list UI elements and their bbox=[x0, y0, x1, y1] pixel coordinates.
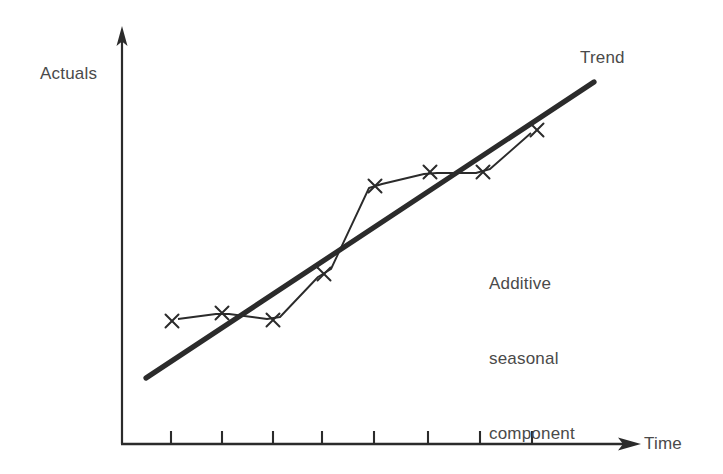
x-axis-label: Time bbox=[644, 434, 682, 454]
trend-label: Trend bbox=[580, 48, 625, 68]
data-point-marker-6 bbox=[424, 166, 437, 179]
data-point-marker-2 bbox=[216, 307, 229, 320]
chart-canvas bbox=[0, 0, 723, 474]
annotation-line-2: seasonal bbox=[489, 346, 575, 371]
data-point-marker-1 bbox=[166, 315, 179, 328]
chart-figure: Actuals Trend Time Additive seasonal com… bbox=[0, 0, 723, 474]
annotation-line-1: Additive bbox=[489, 271, 575, 296]
y-axis bbox=[117, 26, 128, 444]
data-point-marker-3 bbox=[267, 314, 280, 327]
annotation-line-3: component bbox=[489, 421, 575, 446]
x-axis-ticks bbox=[171, 431, 532, 444]
data-point-marker-5 bbox=[369, 180, 382, 193]
data-point-marker-8 bbox=[531, 124, 544, 137]
y-axis-label: Actuals bbox=[40, 64, 97, 84]
seasonal-component-annotation: Additive seasonal component bbox=[489, 221, 575, 474]
data-point-marker-4 bbox=[318, 268, 331, 281]
